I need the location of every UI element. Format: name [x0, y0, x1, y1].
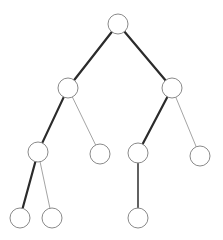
node-circle[interactable]: [128, 208, 148, 228]
edge-layer: [22, 31, 196, 209]
tree-node-n9[interactable]: [128, 208, 148, 228]
tree-edge-n1-n3: [42, 97, 64, 144]
tree-node-n1[interactable]: [58, 78, 78, 98]
node-circle[interactable]: [42, 208, 62, 228]
tree-node-n0[interactable]: [108, 14, 128, 34]
tree-node-n7[interactable]: [10, 208, 30, 228]
tree-node-n6[interactable]: [190, 146, 210, 166]
node-circle[interactable]: [190, 146, 210, 166]
tree-diagram-figure: [0, 0, 223, 240]
tree-node-n8[interactable]: [42, 208, 62, 228]
tree-node-n2[interactable]: [162, 78, 182, 98]
node-circle[interactable]: [10, 208, 30, 228]
node-circle[interactable]: [28, 142, 48, 162]
tree-edge-n2-n5: [142, 96, 167, 144]
node-layer: [10, 14, 210, 228]
tree-edge-n2-n6: [176, 97, 197, 147]
node-circle[interactable]: [58, 78, 78, 98]
tree-edge-n3-n8: [40, 161, 50, 208]
node-circle[interactable]: [128, 143, 148, 163]
tree-node-n5[interactable]: [128, 143, 148, 163]
tree-edge-n3-n7: [22, 161, 35, 209]
tree-diagram-canvas: [0, 0, 223, 240]
tree-node-n3[interactable]: [28, 142, 48, 162]
tree-edge-n0-n2: [124, 31, 166, 80]
tree-edge-n0-n1: [74, 31, 112, 80]
node-circle[interactable]: [108, 14, 128, 34]
tree-node-n4[interactable]: [90, 144, 110, 164]
tree-edge-n1-n4: [72, 97, 96, 146]
node-circle[interactable]: [90, 144, 110, 164]
node-circle[interactable]: [162, 78, 182, 98]
